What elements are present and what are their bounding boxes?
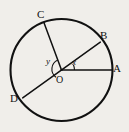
point-label-c: C — [37, 9, 44, 20]
figure-canvas — [0, 0, 129, 132]
point-label-a: A — [113, 63, 121, 74]
geometry-figure: A B C D O x y — [0, 0, 129, 132]
center-point-marker — [60, 69, 62, 71]
angle-label-x: x — [72, 58, 76, 67]
point-label-b: B — [100, 30, 107, 41]
point-label-d: D — [10, 93, 18, 104]
center-label-o: O — [56, 75, 63, 85]
angle-label-y: y — [46, 57, 50, 66]
